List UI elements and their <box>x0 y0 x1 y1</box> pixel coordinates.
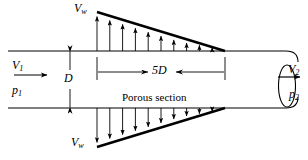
wall-velocity-top-subscript: w <box>81 7 86 16</box>
diameter-dimension-label: D <box>64 72 73 84</box>
wall-velocity-bottom-subscript: w <box>78 141 83 150</box>
inlet-pressure-label: p1 <box>12 84 22 98</box>
inlet-velocity-label: V1 <box>12 59 23 73</box>
porous-section-label: Porous section <box>122 92 186 103</box>
outlet-velocity-subscript: 2 <box>295 68 299 77</box>
porous-pipe-flow-diagram: Vw Vw V1 p1 V2 p2 5D D Porous section <box>0 0 308 160</box>
inlet-pressure-subscript: 1 <box>18 89 22 98</box>
length-dimension-label: 5D <box>152 64 167 76</box>
outlet-pressure-subscript: 2 <box>295 93 299 102</box>
wall-velocity-bottom-label: Vw <box>71 136 84 150</box>
bottom-wall-velocity-arrows <box>97 108 212 143</box>
top-wall-velocity-arrows <box>97 17 212 52</box>
diagram-canvas <box>0 0 308 160</box>
inlet-velocity-subscript: 1 <box>19 64 23 73</box>
wall-velocity-top-label: Vw <box>74 2 87 16</box>
outlet-velocity-label: V2 <box>288 63 299 77</box>
outlet-pressure-label: p2 <box>289 88 299 102</box>
